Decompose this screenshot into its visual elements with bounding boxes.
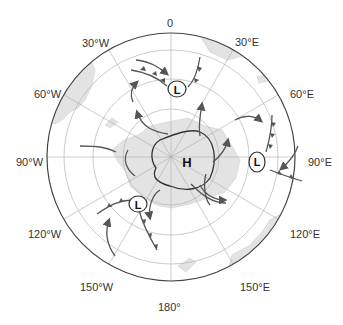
- svg-text:L: L: [135, 199, 142, 211]
- low-pressure-1: L: [168, 81, 186, 97]
- high-pressure-symbol: H: [182, 155, 191, 170]
- antarctica-landmass: [112, 118, 240, 208]
- longitude-label-90w: 90°W: [16, 157, 43, 168]
- longitude-label-180: 180°: [158, 302, 181, 313]
- longitude-label-90e: 90°E: [308, 157, 332, 168]
- longitude-label-150w: 150°W: [80, 282, 113, 293]
- longitude-label-120w: 120°W: [28, 229, 61, 240]
- longitude-label-150e: 150°E: [240, 282, 270, 293]
- longitude-label-0: 0: [167, 18, 173, 29]
- svg-text:L: L: [174, 84, 181, 96]
- new-zealand-landmass: [178, 258, 196, 272]
- svg-text:L: L: [254, 156, 261, 168]
- longitude-label-30e: 30°E: [235, 37, 259, 48]
- polar-map: H: [0, 0, 343, 325]
- low-pressure-3: L: [129, 196, 147, 212]
- australia-landmass: [228, 213, 292, 276]
- longitude-label-60e: 60°E: [290, 89, 314, 100]
- low-pressure-2: L: [249, 152, 265, 172]
- longitude-label-120e: 120°E: [290, 229, 320, 240]
- longitude-label-60w: 60°W: [34, 89, 61, 100]
- longitude-label-30w: 30°W: [82, 38, 109, 49]
